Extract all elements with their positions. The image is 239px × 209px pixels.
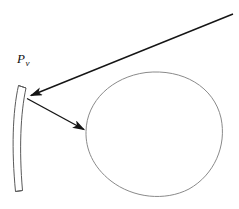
diagram-svg xyxy=(0,0,239,209)
mirror-label-subscript: v xyxy=(25,58,29,68)
mirror-label-base: P xyxy=(17,51,25,66)
figure-canvas: Pv xyxy=(0,0,239,209)
mirror-label: Pv xyxy=(17,52,29,68)
circular-object xyxy=(86,72,222,197)
long-incoming-ray xyxy=(31,14,233,96)
mirror-body xyxy=(13,86,26,192)
reflected-ray-to-object xyxy=(27,99,84,130)
mirror-bottom-cap xyxy=(16,191,23,192)
mirror-top-cap xyxy=(19,86,27,89)
curved-mirror xyxy=(13,86,26,192)
